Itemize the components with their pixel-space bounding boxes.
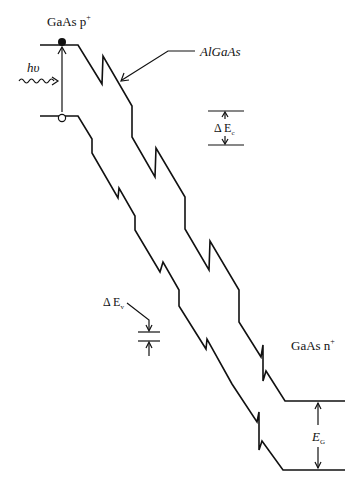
delta-ev-marker bbox=[127, 303, 160, 356]
photon-label: hυ bbox=[27, 60, 40, 75]
electron-dot bbox=[58, 38, 66, 46]
bandgap-label: EG bbox=[311, 429, 325, 446]
delta-ev-label: Δ Ev bbox=[103, 295, 124, 311]
delta-ec-label: Δ Ec bbox=[214, 121, 235, 137]
algaas-pointer-arrow bbox=[121, 51, 195, 81]
excitation-arrow bbox=[58, 47, 66, 112]
hole-circle bbox=[58, 114, 65, 121]
band-diagram: hυ GaAs p+ AlGaAs Δ Ec Δ Ev GaAs n+ bbox=[0, 0, 358, 481]
middle-material-label: AlGaAs bbox=[199, 44, 240, 59]
right-material-label: GaAs n+ bbox=[291, 337, 335, 353]
left-material-label: GaAs p+ bbox=[47, 13, 91, 29]
photon-wavy-arrow bbox=[19, 77, 58, 85]
valence-band-edge bbox=[40, 116, 345, 470]
